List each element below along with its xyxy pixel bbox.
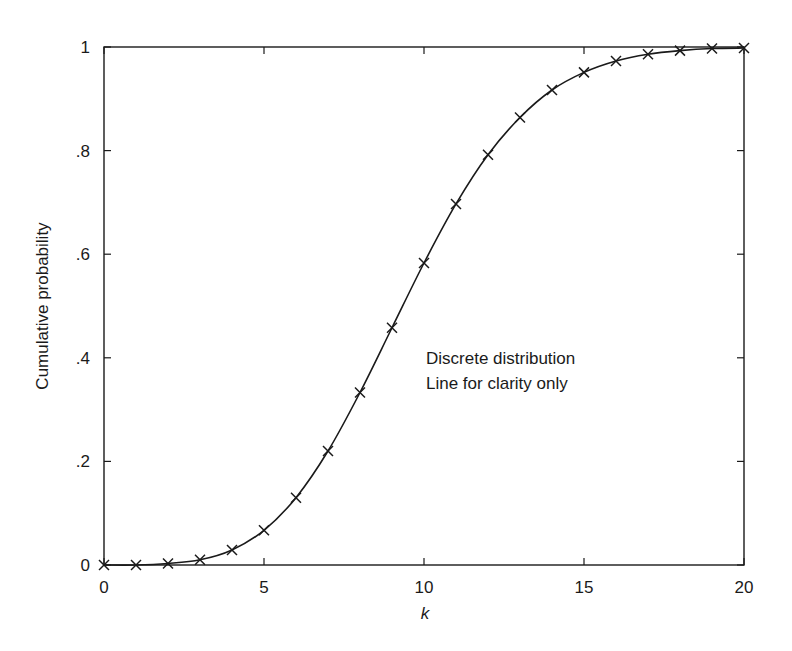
annotation-clarity: Line for clarity only [426,374,568,393]
cdf-chart: 05101520 0.2.4.6.81 k Cumulative probabi… [0,0,792,651]
axis-ticks [104,47,744,565]
y-tick-label: 1 [81,38,90,57]
x-marker-icon [355,388,365,398]
cdf-line [104,48,744,565]
x-tick-label: 5 [259,578,268,597]
x-marker-icon [259,525,269,535]
y-tick-label: .2 [76,452,90,471]
y-tick-label: .4 [76,349,90,368]
x-tick-label: 15 [575,578,594,597]
x-marker-icon [419,258,429,268]
y-axis-label: Cumulative probability [33,222,52,390]
x-marker-icon [515,112,525,122]
x-axis-label: k [421,604,431,623]
y-tick-labels: 0.2.4.6.81 [76,38,90,575]
data-markers [99,43,749,570]
x-tick-label: 10 [415,578,434,597]
y-tick-label: .8 [76,142,90,161]
x-tick-label: 20 [735,578,754,597]
x-marker-icon [451,199,461,209]
y-tick-label: 0 [81,556,90,575]
x-tick-labels: 05101520 [99,578,753,597]
x-marker-icon [323,446,333,456]
annotation-discrete: Discrete distribution [426,349,575,368]
x-marker-icon [227,545,237,555]
x-marker-icon [483,150,493,160]
x-marker-icon [547,85,557,95]
x-marker-icon [291,493,301,503]
x-marker-icon [387,323,397,333]
x-marker-icon [611,56,621,66]
x-tick-label: 0 [99,578,108,597]
plot-frame [104,47,744,565]
y-tick-label: .6 [76,245,90,264]
x-marker-icon [579,67,589,77]
